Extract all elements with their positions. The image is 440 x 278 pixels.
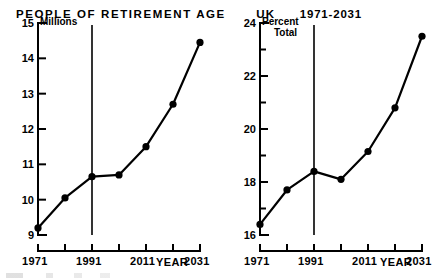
data-point-marker xyxy=(115,171,122,178)
y-axis-tick-label: 20 xyxy=(226,123,256,135)
y-axis-tick-label: 10 xyxy=(4,194,34,206)
data-point-marker xyxy=(364,148,371,155)
data-point-marker xyxy=(142,143,149,150)
data-point-marker xyxy=(418,33,425,40)
y-axis-unit-label-right: PercentTotal xyxy=(262,16,299,38)
page-caption-fragment xyxy=(6,273,124,278)
x-axis-tick-label: 2031 xyxy=(184,255,210,267)
y-axis-tick-label: 11 xyxy=(4,158,34,170)
x-axis-tick-label: 1991 xyxy=(76,255,102,267)
x-axis-tick-label: 1991 xyxy=(298,255,324,267)
axes-group xyxy=(38,23,200,251)
y-axis-tick-label: 9 xyxy=(4,229,34,241)
y-axis-unit-line-1: Percent xyxy=(262,16,299,27)
y-axis-tick-label: 22 xyxy=(226,70,256,82)
x-axis-tick-label: 2011 xyxy=(130,255,155,267)
data-point-marker xyxy=(310,168,317,175)
y-axis-tick-label: 12 xyxy=(4,123,34,135)
data-point-marker xyxy=(256,221,263,228)
y-axis-unit-label-left: Millions xyxy=(40,16,77,27)
axes-group xyxy=(260,23,422,251)
data-point-marker xyxy=(337,176,344,183)
chart-figure: PEOPLE OF RETIREMENT AGE UK 1971-2031 Mi… xyxy=(0,0,440,278)
y-axis-tick-label: 15 xyxy=(4,17,34,29)
data-point-marker xyxy=(88,173,95,180)
data-point-marker xyxy=(196,39,203,46)
data-point-marker xyxy=(391,104,398,111)
x-axis-tick-label: 2031 xyxy=(406,255,432,267)
data-point-marker xyxy=(61,194,68,201)
chart-panel-millions: Millions YEAR 91011121314151971199120112… xyxy=(4,18,216,272)
data-series-line xyxy=(260,36,422,224)
y-axis-tick-label: 16 xyxy=(226,229,256,241)
y-axis-tick-label: 13 xyxy=(4,88,34,100)
data-point-marker xyxy=(169,101,176,108)
x-axis-tick-label: 1971 xyxy=(244,255,270,267)
chart-panel-percent: PercentTotal YEAR 1618202224197119912011… xyxy=(222,18,434,272)
line-chart-millions xyxy=(4,18,216,272)
x-axis-tick-label: 2011 xyxy=(352,255,377,267)
y-axis-tick-label: 24 xyxy=(226,17,256,29)
y-axis-unit-line-2: Total xyxy=(274,27,297,38)
data-point-marker xyxy=(34,224,41,231)
data-point-marker xyxy=(283,186,290,193)
y-axis-tick-label: 18 xyxy=(226,176,256,188)
y-axis-tick-label: 14 xyxy=(4,52,34,64)
x-axis-tick-label: 1971 xyxy=(22,255,48,267)
